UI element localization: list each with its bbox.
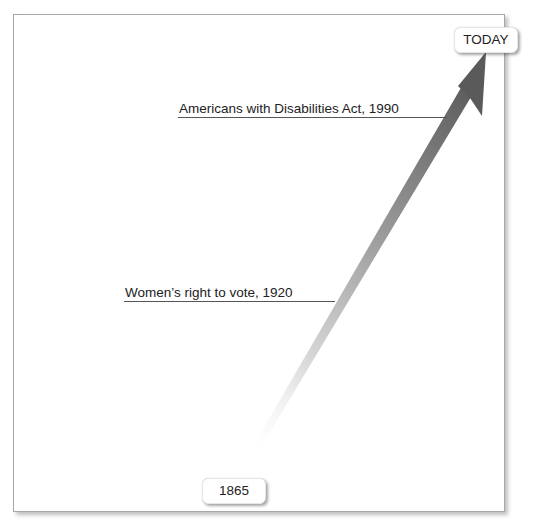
event-label-womens-vote-1920: Women’s right to vote, 1920: [125, 285, 293, 300]
start-year-badge: 1865: [202, 478, 266, 504]
arrow-shaft: [244, 86, 474, 462]
timeline-arrow: [0, 0, 547, 529]
event-label-ada-1990: Americans with Disabilities Act, 1990: [179, 101, 399, 116]
today-badge: TODAY: [454, 27, 518, 53]
